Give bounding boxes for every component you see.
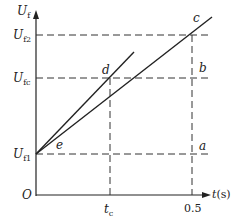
tick-uf1: Uf1 <box>13 148 31 163</box>
point-label-a: a <box>199 140 206 152</box>
line-e-d <box>36 52 134 154</box>
point-label-d: d <box>102 64 110 76</box>
point-label-b: b <box>199 62 207 74</box>
tick-0-5: 0.5 <box>184 203 202 214</box>
y-axis-label: Uf <box>17 5 30 20</box>
origin-label: O <box>22 189 32 201</box>
tick-ufc: Ufc <box>13 72 31 87</box>
line-e-c <box>36 17 212 154</box>
tick-tc: tc <box>104 203 113 218</box>
x-axis-arrow-icon <box>202 192 211 198</box>
tick-uf2: Uf2 <box>13 29 31 44</box>
point-label-c: c <box>193 12 200 24</box>
y-axis-arrow-icon <box>33 10 39 19</box>
point-label-e: e <box>56 139 63 151</box>
diagram-canvas <box>0 0 239 221</box>
x-axis-label: t(s) <box>212 189 231 200</box>
